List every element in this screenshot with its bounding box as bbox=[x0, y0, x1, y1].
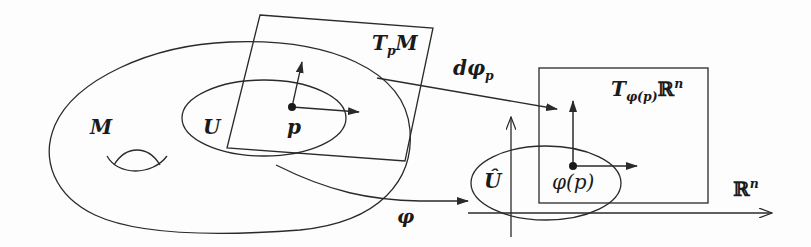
label-open-set-u: U bbox=[203, 117, 220, 137]
label-text: T bbox=[611, 77, 626, 101]
label-text: T bbox=[372, 31, 387, 55]
differential-arrow bbox=[377, 78, 557, 109]
label-point-p: p bbox=[287, 117, 301, 137]
label-text: M bbox=[396, 31, 418, 55]
label-text: M bbox=[90, 115, 112, 139]
label-image-tangent-space: Tφ(p)ℝn bbox=[611, 78, 683, 103]
label-image-set-u-hat: Û bbox=[484, 171, 501, 191]
point-p-dot bbox=[288, 103, 296, 111]
label-text: ℝ bbox=[733, 177, 750, 201]
chart-map-arrow bbox=[276, 165, 468, 201]
label-image-point: φ(p) bbox=[552, 172, 594, 192]
point-phi-p-dot bbox=[569, 162, 577, 170]
manifold-hole-lower bbox=[107, 156, 167, 171]
label-text: Û bbox=[484, 169, 501, 193]
label-text: dφ bbox=[453, 56, 485, 80]
label-tangent-space: TpM bbox=[372, 33, 418, 57]
label-sub: φ(p) bbox=[626, 89, 658, 104]
label-text: ℝ bbox=[658, 77, 675, 101]
label-chart-map-phi: φ bbox=[397, 207, 414, 226]
tangent-vector-right bbox=[292, 107, 359, 112]
label-sup: n bbox=[674, 76, 683, 91]
label-sub: p bbox=[387, 43, 396, 58]
label-text: p bbox=[287, 115, 301, 139]
label-differential: dφp bbox=[453, 58, 494, 82]
label-text: φ(p) bbox=[552, 170, 594, 194]
label-euclidean-space: ℝn bbox=[733, 178, 759, 199]
diagram-canvas: M U p TpM dφp φ Tφ(p)ℝn Û φ(p) ℝn bbox=[0, 0, 811, 247]
manifold-hole-upper bbox=[114, 150, 160, 165]
label-sup: n bbox=[750, 176, 759, 191]
label-text: φ bbox=[397, 205, 414, 227]
label-manifold-m: M bbox=[90, 117, 112, 137]
label-sub: p bbox=[485, 68, 494, 83]
label-text: U bbox=[203, 115, 220, 139]
